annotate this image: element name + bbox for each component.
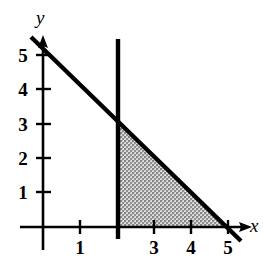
y-tick-label-2: 2: [14, 149, 32, 168]
y-tick-label-4: 4: [14, 80, 32, 99]
coordinate-plane-svg: [0, 0, 263, 261]
y-axis: [38, 35, 48, 250]
x-tick-label-3: 3: [145, 238, 163, 257]
x-tick-label-1: 1: [71, 238, 89, 257]
y-tick-label-1: 1: [14, 183, 32, 202]
x-axis-label: x: [250, 216, 258, 235]
x-tick-label-4: 4: [182, 238, 200, 257]
graph-figure: 5 4 3 2 1 1 3 4 5 y x: [0, 0, 263, 261]
y-tick-label-3: 3: [14, 115, 32, 134]
x-tick-label-5: 5: [219, 238, 237, 257]
y-axis-label: y: [36, 8, 44, 27]
y-tick-label-5: 5: [14, 46, 32, 65]
